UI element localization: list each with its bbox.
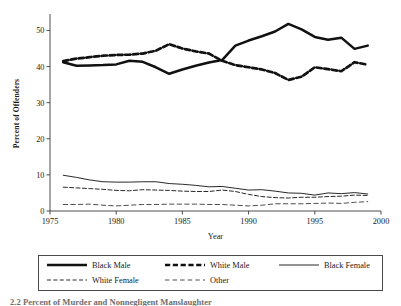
series-line-black-female [63,175,368,195]
y-tick-label: 0 [40,207,44,216]
legend-swatch-dashed-thick [165,260,205,270]
legend-item-other[interactable]: Other [165,275,229,285]
y-axis-title: Percent of Offenders [12,79,21,148]
legend-entries: Black MaleWhite MaleBlack FemaleWhite Fe… [39,256,382,290]
x-tick-label: 1995 [307,217,324,226]
chart-legend: Black MaleWhite MaleBlack FemaleWhite Fe… [38,255,383,291]
legend-item-black-female[interactable]: Black Female [279,260,370,270]
legend-label: White Male [210,261,249,270]
x-tick-label: 2000 [373,217,390,226]
legend-item-white-male[interactable]: White Male [165,260,249,270]
y-tick-label: 50 [36,26,44,35]
x-tick-label: 1985 [174,217,191,226]
legend-label: Black Male [92,261,130,270]
series-line-white-female [63,187,368,198]
x-tick-label: 1975 [42,217,59,226]
series-line-other [63,202,368,206]
legend-label: Black Female [324,261,370,270]
y-tick-label: 10 [36,171,44,180]
y-tick-label: 30 [36,99,44,108]
figure-caption: 2.2 Percent of Murder and Nonnegligent M… [10,297,401,306]
legend-item-black-male[interactable]: Black Male [47,260,130,270]
legend-label: Other [210,276,229,285]
figure: 01020304050197519801985199019952000YearP… [0,0,401,306]
y-tick-label: 20 [36,135,44,144]
legend-item-white-female[interactable]: White Female [47,275,139,285]
x-tick-label: 1990 [240,217,257,226]
legend-label: White Female [92,276,139,285]
legend-swatch-solid-thin [279,260,319,270]
axes [47,14,382,215]
y-tick-label: 40 [36,63,44,72]
x-tick-label: 1980 [108,217,125,226]
data-series [63,24,368,206]
series-line-black-male [63,24,368,74]
x-axis-title: Year [208,232,224,241]
axis-labels: 01020304050197519801985199019952000YearP… [12,26,389,241]
legend-swatch-solid-thick [47,260,87,270]
legend-swatch-dashed-thin [47,275,87,285]
legend-swatch-dashed-light [165,275,205,285]
